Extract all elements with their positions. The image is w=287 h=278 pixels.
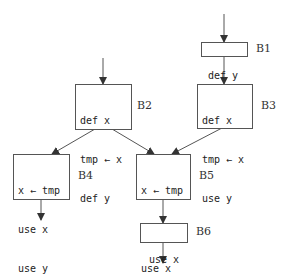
block-b6-label: B6 (196, 226, 211, 238)
block-b4-label: B4 (78, 170, 93, 182)
control-flow-diagram: def y B1 def x tmp ← x def y B2 def x tm… (0, 0, 287, 278)
block-b2-label: B2 (137, 100, 152, 112)
block-b2-line-1: def x (80, 114, 127, 127)
block-b3-label: B3 (261, 100, 276, 112)
block-b6-line-1: use x (149, 253, 187, 266)
block-b3-line-1: def x (202, 114, 248, 127)
block-b3-line-2: tmp ← x (202, 153, 248, 166)
block-b2: def x tmp ← x def y (75, 84, 132, 130)
block-b2-line-2: tmp ← x (80, 153, 127, 166)
block-b5-line-1: x ← tmp (141, 184, 186, 197)
block-b1: def y (201, 42, 248, 57)
block-b1-line-1: def y (208, 69, 247, 82)
block-b5-label: B5 (199, 170, 214, 182)
block-b2-line-3: def y (80, 192, 127, 205)
block-b4: x ← tmp use x use y (13, 154, 70, 200)
block-b3-line-3: use y (202, 192, 248, 205)
block-b4-line-2: use x (18, 223, 65, 236)
block-b5: x ← tmp use x use x (136, 154, 191, 200)
block-b4-line-1: x ← tmp (18, 184, 65, 197)
block-b1-label: B1 (256, 43, 271, 55)
block-b6: use x (140, 223, 188, 243)
block-b3: def x tmp ← x use y (197, 84, 253, 129)
block-b4-line-3: use y (18, 262, 65, 275)
